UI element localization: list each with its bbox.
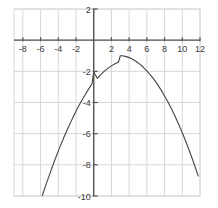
x-tick-label: -6: [37, 44, 45, 54]
y-tick-label: -8: [83, 160, 91, 170]
y-tick-label: -10: [78, 192, 91, 202]
plot-background: [0, 0, 218, 208]
parabola-chart: -8-6-4-2246810122-2-4-6-8-10: [0, 0, 218, 208]
x-tick-label: 10: [177, 44, 187, 54]
y-tick-label: -4: [83, 98, 91, 108]
x-tick-label: 8: [162, 44, 167, 54]
x-tick-label: -2: [72, 44, 80, 54]
y-tick-label: 2: [86, 5, 91, 15]
x-tick-label: 6: [144, 44, 149, 54]
x-tick-label: 2: [109, 44, 114, 54]
chart-container: -8-6-4-2246810122-2-4-6-8-10: [0, 0, 218, 208]
x-tick-label: 4: [127, 44, 132, 54]
x-tick-label: -4: [54, 44, 62, 54]
y-tick-label: -2: [83, 67, 91, 77]
y-tick-label: -6: [83, 129, 91, 139]
x-tick-label: 12: [195, 44, 205, 54]
x-tick-label: -8: [19, 44, 27, 54]
